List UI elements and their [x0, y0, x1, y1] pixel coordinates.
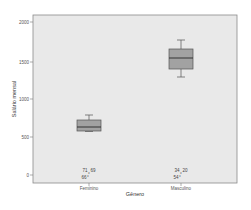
y-tick-label: 0: [26, 173, 29, 178]
y-tick-label: 1000: [19, 97, 30, 102]
x-tick-label: Masculino: [171, 186, 192, 191]
x-axis-title: Gênero: [126, 191, 144, 197]
svg-text:20: 20: [182, 168, 188, 173]
y-axis-title: Salário mensal: [11, 81, 17, 117]
y-tick-label: 1500: [19, 60, 30, 65]
boxplot-chart: 0 500 1000 1500 2000 Salário mensal 71 6…: [0, 0, 251, 210]
y-tick-label: 2000: [19, 20, 30, 25]
svg-text:°: °: [87, 175, 89, 180]
y-tick-label: 500: [21, 135, 29, 140]
svg-text:69: 69: [90, 168, 96, 173]
x-tick-label: Feminino: [80, 186, 99, 191]
svg-text:°: °: [179, 175, 181, 180]
y-axis: 0 500 1000 1500 2000: [19, 20, 33, 178]
plot-area: [33, 15, 237, 183]
